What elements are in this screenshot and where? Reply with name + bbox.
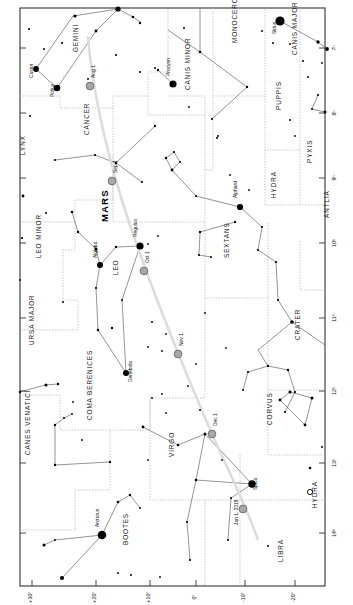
marker-jan-1-2018 — [239, 505, 247, 513]
star-regulus — [136, 242, 143, 249]
marker-label: Jan 1, 2018 — [234, 499, 239, 525]
star-label: Denebola — [128, 361, 133, 382]
star-alphard — [237, 204, 243, 210]
ra-tick-label: 7ʰ — [331, 45, 337, 50]
constellation-label: LIBRA — [277, 539, 284, 562]
constellation-label: PYXIS — [306, 140, 313, 163]
constellation-label: HYDRA — [270, 171, 277, 198]
constellation-label: GEMINI — [72, 24, 79, 52]
star-procyon — [169, 80, 176, 87]
constellation-label: ANTLIA — [323, 190, 330, 218]
star-label: Alphard — [233, 181, 238, 198]
dec-tick-label: +30° — [27, 591, 33, 602]
ra-tick-label: 12ʰ — [331, 387, 337, 395]
ra-tick-label: 8ʰ — [331, 110, 337, 115]
star-label: Castor — [29, 63, 34, 78]
dec-tick-label: -20° — [290, 592, 296, 602]
constellation-label: LEO — [112, 260, 119, 276]
constellation-label: CORVUS — [266, 392, 273, 425]
constellation-label: LYNX — [19, 135, 26, 155]
ra-tick-label: 9ʰ — [331, 175, 337, 180]
ra-tick-label: 10ʰ — [331, 239, 337, 247]
constellation-label: HYDRA — [311, 481, 318, 508]
constellation-label: CANIS MINOR — [184, 37, 191, 90]
constellation-label: MONOCEROS — [231, 0, 238, 43]
constellation-label: BOOTES — [122, 513, 129, 545]
star-chart: MARS GEMINI CANCER LYNX CANIS MINOR MONO… — [0, 0, 353, 605]
constellation-label: CANCER — [83, 103, 90, 135]
constellation-label: VIRGO — [168, 432, 175, 457]
constellation-label: LEO MINOR — [35, 214, 42, 258]
star-label: Algieba — [93, 241, 98, 258]
star-label: Sirius — [272, 21, 277, 34]
star-label: Procyon — [166, 58, 171, 76]
star-algieba — [97, 262, 103, 268]
marker-dec-1 — [208, 430, 216, 438]
dec-tick-label: -10° — [240, 592, 246, 602]
constellation-label: CANES VENATICI — [24, 390, 31, 455]
marker-label: Oct 1 — [145, 251, 150, 263]
page-title: MARS — [99, 189, 110, 222]
star-label: Pollux — [50, 83, 55, 97]
marker-label: Aug 1 — [91, 65, 96, 78]
constellation-label: CANIS MAJOR — [291, 1, 298, 55]
marker-aug-1 — [86, 82, 94, 90]
dec-tick-labels: +30° +20° +10° 0° -10° -20° — [27, 591, 296, 602]
constellation-label: CRATER — [294, 309, 301, 340]
star-label: Arcturus — [95, 508, 100, 527]
constellation-label: SEXTANS — [223, 222, 230, 258]
star-chart-svg: MARS GEMINI CANCER LYNX CANIS MINOR MONO… — [0, 0, 353, 605]
dec-tick-label: 0° — [191, 594, 197, 599]
star-label: Spica — [253, 477, 258, 490]
ra-tick-label: 14ʰ — [331, 529, 337, 537]
marker-sep-1 — [108, 177, 116, 185]
ra-tick-labels: 7ʰ 8ʰ 9ʰ 10ʰ 11ʰ 12ʰ 13ʰ 14ʰ — [331, 45, 337, 537]
ra-tick-label: 11ʰ — [331, 314, 337, 322]
dec-tick-label: +20° — [91, 591, 97, 602]
star-arcturus — [98, 531, 107, 540]
constellation-label: PUPPIS — [275, 81, 282, 110]
marker-label: Sep 1 — [113, 160, 118, 173]
dec-tick-label: +10° — [145, 591, 151, 602]
marker-label: Dec 1 — [213, 413, 218, 426]
constellation-label: URSA MAJOR — [28, 294, 35, 345]
marker-oct-1 — [140, 267, 148, 275]
marker-label: Nov 1 — [179, 333, 184, 346]
constellation-label: COMA BERENICES — [86, 350, 93, 420]
star-label: Regulus — [133, 219, 138, 237]
ra-tick-label: 13ʰ — [331, 459, 337, 467]
marker-nov-1 — [174, 350, 182, 358]
